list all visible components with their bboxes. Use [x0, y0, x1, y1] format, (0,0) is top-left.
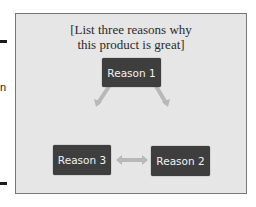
node-label: Reason 3: [58, 154, 106, 166]
diagram-panel: [List three reasons why this product is …: [15, 13, 247, 194]
node-label: Reason 1: [107, 67, 155, 79]
connector-layer: [16, 14, 248, 195]
edge-mark-bottom: [0, 182, 7, 185]
node-reason-3[interactable]: Reason 3: [53, 145, 111, 175]
edge-mark-top: [0, 40, 7, 43]
node-reason-1[interactable]: Reason 1: [102, 58, 161, 87]
edge-text-fragment: n: [0, 81, 6, 93]
node-reason-2[interactable]: Reason 2: [151, 146, 210, 176]
connector-reason3-reason2: [116, 155, 148, 165]
node-label: Reason 2: [156, 155, 204, 167]
